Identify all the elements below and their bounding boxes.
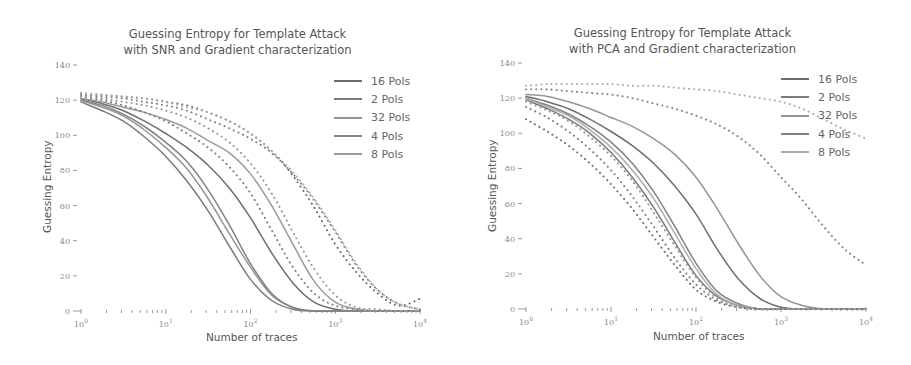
y-tick-label: 80 (505, 164, 515, 173)
chart-snr-panel: Guessing Entropy for Template Attack wit… (0, 0, 455, 365)
legend-label: 32 Pols (818, 109, 857, 122)
y-tick-label: 60 (505, 200, 515, 209)
y-tick-label: 20 (505, 270, 515, 279)
legend-item: 4 Pols (334, 127, 410, 145)
legend-item: 8 Pols (334, 145, 410, 163)
x-axis-label: Number of traces (653, 330, 745, 342)
x-tick-label: 102 (689, 315, 703, 327)
legend: 16 Pols2 Pols32 Pols4 Pols8 Pols (781, 70, 857, 161)
legend-swatch-icon (781, 133, 809, 135)
y-tick-label: 140 (55, 61, 70, 70)
legend-item: 16 Pols (781, 70, 857, 88)
y-tick-label: 20 (60, 272, 70, 281)
plot-area: 020406080100120140100101102103104 (0, 0, 455, 365)
plot-area: 020406080100120140100101102103104 (455, 0, 911, 365)
legend-label: 16 Pols (818, 73, 857, 86)
legend-item: 2 Pols (334, 90, 410, 108)
x-tick-label: 100 (519, 315, 533, 327)
legend-swatch-icon (334, 98, 362, 100)
y-tick-label: 140 (500, 59, 515, 68)
legend-swatch-icon (781, 115, 809, 117)
legend-label: 2 Pols (818, 91, 850, 104)
y-tick-label: 120 (55, 96, 70, 105)
legend-label: 4 Pols (371, 130, 403, 143)
y-tick-label: 0 (65, 307, 70, 316)
x-tick-label: 101 (604, 315, 618, 327)
y-tick-label: 40 (505, 235, 515, 244)
y-tick-label: 120 (500, 94, 515, 103)
chart-pca-panel: Guessing Entropy for Template Attack wit… (455, 0, 910, 365)
legend-swatch-icon (334, 135, 362, 137)
y-axis-label: Guessing Entropy (486, 139, 498, 232)
legend-label: 2 Pols (371, 93, 403, 106)
x-axis-label: Number of traces (206, 331, 298, 343)
legend-item: 8 Pols (781, 143, 857, 161)
legend-label: 8 Pols (818, 146, 850, 159)
legend-swatch-icon (781, 96, 809, 98)
legend-swatch-icon (334, 153, 362, 155)
legend-label: 4 Pols (818, 128, 850, 141)
y-axis-label: Guessing Entropy (41, 140, 53, 233)
x-tick-label: 101 (159, 317, 173, 329)
x-tick-label: 104 (859, 315, 873, 327)
x-tick-label: 103 (774, 315, 788, 327)
y-tick-label: 80 (60, 166, 70, 175)
y-tick-label: 100 (55, 131, 70, 140)
legend: 16 Pols2 Pols32 Pols4 Pols8 Pols (334, 72, 410, 163)
x-tick-label: 103 (328, 317, 342, 329)
legend-item: 2 Pols (781, 88, 857, 106)
y-tick-label: 100 (500, 129, 515, 138)
x-tick-label: 104 (413, 317, 427, 329)
legend-label: 32 Pols (371, 111, 410, 124)
y-tick-label: 40 (60, 237, 70, 246)
legend-item: 16 Pols (334, 72, 410, 90)
legend-swatch-icon (781, 151, 809, 153)
legend-item: 32 Pols (781, 107, 857, 125)
legend-swatch-icon (334, 80, 362, 82)
legend-swatch-icon (781, 78, 809, 80)
x-tick-label: 100 (74, 317, 88, 329)
y-tick-label: 60 (60, 202, 70, 211)
legend-label: 8 Pols (371, 148, 403, 161)
legend-swatch-icon (334, 117, 362, 119)
legend-item: 32 Pols (334, 109, 410, 127)
legend-item: 4 Pols (781, 125, 857, 143)
legend-label: 16 Pols (371, 75, 410, 88)
x-tick-label: 102 (243, 317, 257, 329)
y-tick-label: 0 (510, 305, 515, 314)
